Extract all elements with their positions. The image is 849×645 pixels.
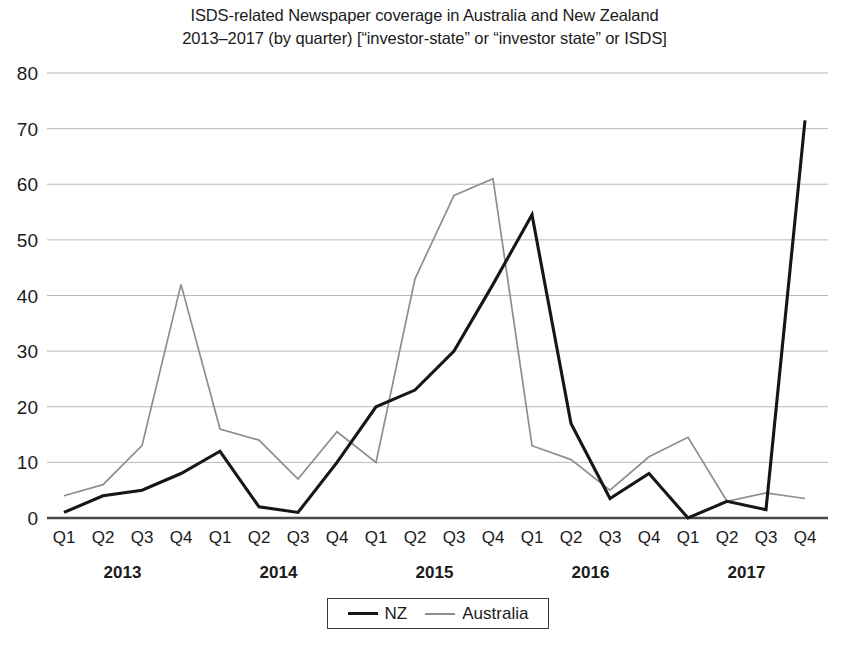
x-axis-year-labels: 20132014201520162017 [104,563,766,582]
x-tick-label-quarter: Q4 [638,528,661,547]
y-tick-label: 40 [17,286,38,307]
x-tick-label-quarter: Q1 [53,528,76,547]
y-tick-label: 50 [17,230,38,251]
x-tick-label-quarter: Q1 [209,528,232,547]
chart-plot-area: 01020304050607080 Q1Q2Q3Q4Q1Q2Q3Q4Q1Q2Q3… [0,0,849,645]
x-tick-label-quarter: Q2 [92,528,115,547]
x-tick-label-quarter: Q4 [482,528,505,547]
x-axis-year-label: 2016 [572,563,610,582]
y-tick-label: 0 [27,508,38,529]
y-tick-label: 10 [17,452,38,473]
chart-container: ISDS-related Newspaper coverage in Austr… [0,0,849,645]
x-tick-label-quarter: Q3 [131,528,154,547]
y-tick-label: 70 [17,119,38,140]
x-axis-year-label: 2015 [416,563,454,582]
series-line-australia [64,179,805,502]
y-tick-label: 80 [17,63,38,84]
chart-legend: NZ Australia [327,598,549,629]
y-axis-tick-labels: 01020304050607080 [17,63,38,529]
x-tick-label-quarter: Q2 [248,528,271,547]
y-tick-label: 20 [17,397,38,418]
x-tick-label-quarter: Q1 [521,528,544,547]
x-axis-quarter-labels: Q1Q2Q3Q4Q1Q2Q3Q4Q1Q2Q3Q4Q1Q2Q3Q4Q1Q2Q3Q4 [53,528,817,547]
x-tick-label-quarter: Q4 [794,528,817,547]
x-tick-label-quarter: Q2 [716,528,739,547]
x-tick-label-quarter: Q4 [170,528,193,547]
x-tick-label-quarter: Q3 [443,528,466,547]
x-tick-label-quarter: Q1 [365,528,388,547]
x-tick-label-quarter: Q3 [599,528,622,547]
legend-swatch-australia-icon [425,613,455,615]
x-axis-year-label: 2013 [104,563,142,582]
x-tick-label-quarter: Q3 [755,528,778,547]
legend-swatch-nz-icon [348,612,378,615]
legend-item-australia: Australia [416,605,537,622]
legend-item-nz: NZ [339,605,417,622]
series-line-nz [64,120,805,518]
x-tick-label-quarter: Q2 [560,528,583,547]
gridlines-group [47,73,828,518]
y-tick-label: 30 [17,341,38,362]
x-tick-label-quarter: Q1 [677,528,700,547]
x-axis-year-label: 2014 [260,563,298,582]
x-axis-year-label: 2017 [728,563,766,582]
x-tick-label-quarter: Q3 [287,528,310,547]
x-tick-label-quarter: Q2 [404,528,427,547]
legend-label-australia: Australia [462,605,528,622]
x-tick-label-quarter: Q4 [326,528,349,547]
legend-label-nz: NZ [385,605,408,622]
y-tick-label: 60 [17,174,38,195]
data-series-group [64,120,805,518]
